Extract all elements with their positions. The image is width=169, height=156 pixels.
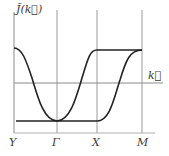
tick-label-x: X — [92, 137, 100, 148]
tick-label-gamma: Γ — [52, 137, 60, 148]
curve-1 — [14, 48, 142, 121]
y-axis-label: J̃(k⃗) — [16, 4, 42, 15]
diagram: J̃(k⃗) k⃗ Y Γ X M — [0, 0, 169, 156]
tick-label-m: M — [137, 137, 148, 148]
tick-label-y: Y — [9, 137, 16, 148]
plot-canvas — [0, 0, 169, 156]
x-axis-label: k⃗ — [148, 70, 161, 81]
